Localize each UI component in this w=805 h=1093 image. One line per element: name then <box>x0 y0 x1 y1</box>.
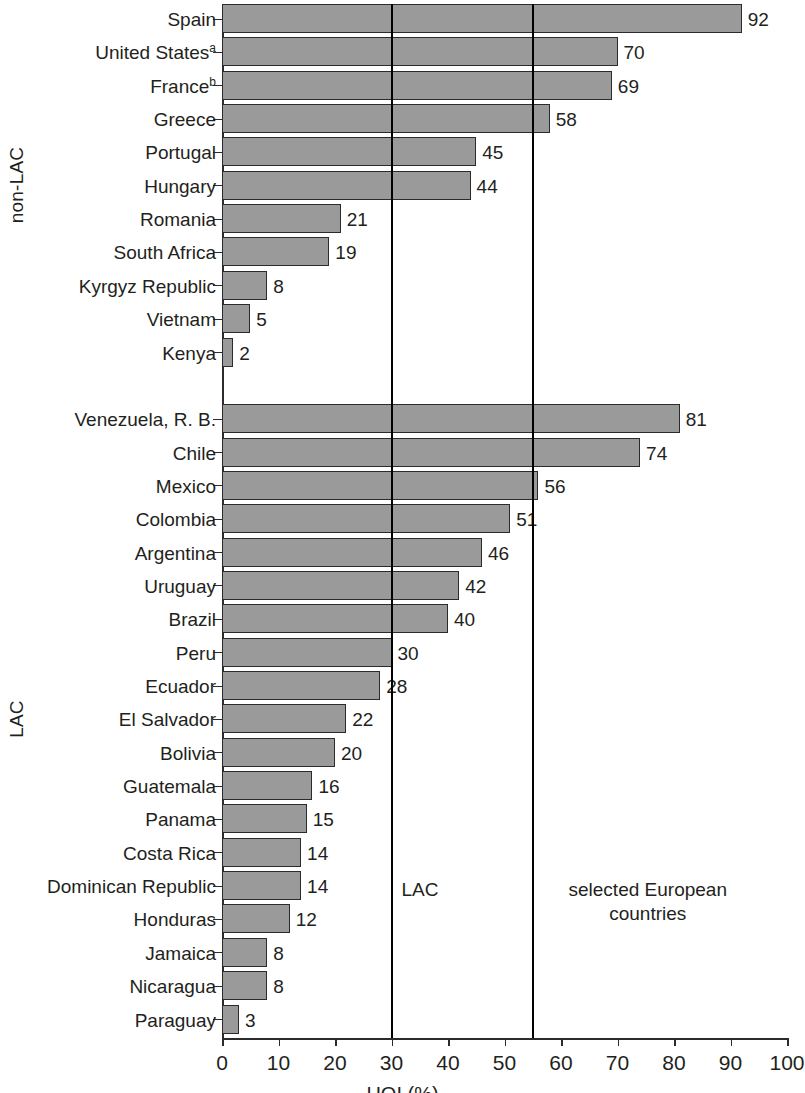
bar-row: Brazil40 <box>0 604 805 633</box>
bar <box>222 137 476 166</box>
bar <box>222 438 640 467</box>
bar <box>222 171 471 200</box>
bar-value-label: 69 <box>618 77 639 96</box>
bar-row: Portugal45 <box>0 137 805 166</box>
bar-value-label: 20 <box>341 744 362 763</box>
bar-value-label: 14 <box>307 844 328 863</box>
x-axis-tick-label: 70 <box>606 1051 629 1075</box>
bar <box>222 204 341 233</box>
category-label: South Africa <box>114 243 216 262</box>
category-label: Colombia <box>136 510 216 529</box>
x-axis-tick-label: 90 <box>719 1051 742 1075</box>
bar-value-label: 5 <box>256 310 267 329</box>
bar-row: Vietnam5 <box>0 304 805 333</box>
x-axis-tick-label: 80 <box>662 1051 685 1075</box>
category-label: Franceb <box>150 77 216 96</box>
bar <box>222 304 250 333</box>
bar-value-label: 16 <box>318 777 339 796</box>
bar <box>222 1005 239 1034</box>
bar <box>222 871 301 900</box>
category-label: Panama <box>145 810 216 829</box>
bar-value-label: 58 <box>556 110 577 129</box>
category-label: Uruguay <box>144 577 216 596</box>
x-axis-tick-label: 0 <box>216 1051 228 1075</box>
bar-row: Guatemala16 <box>0 771 805 800</box>
bar-value-label: 8 <box>273 944 284 963</box>
bar <box>222 571 459 600</box>
bar-row: Greece58 <box>0 104 805 133</box>
bar <box>222 404 680 433</box>
category-label: Nicaragua <box>129 977 216 996</box>
bar-value-label: 21 <box>347 210 368 229</box>
bar-value-label: 74 <box>646 444 667 463</box>
reference-line-annotation: LAC <box>402 878 439 902</box>
bar-value-label: 40 <box>454 610 475 629</box>
x-axis-tick <box>731 1038 733 1046</box>
bar-value-label: 3 <box>245 1011 256 1030</box>
bar-row: Mexico56 <box>0 471 805 500</box>
bar-row: Romania21 <box>0 204 805 233</box>
x-axis-tick <box>787 1038 789 1046</box>
bar-value-label: 8 <box>273 277 284 296</box>
bar <box>222 738 335 767</box>
bar <box>222 604 448 633</box>
bar-row: Ecuador28 <box>0 671 805 700</box>
reference-line-annotation: selected European countries <box>543 878 753 926</box>
bar <box>222 771 312 800</box>
bar-row: Kyrgyz Republic8 <box>0 271 805 300</box>
bar-row: Kenya2 <box>0 338 805 367</box>
category-label: Dominican Republic <box>47 877 216 896</box>
bar-value-label: 2 <box>239 344 250 363</box>
x-axis-tick-label: 40 <box>436 1051 459 1075</box>
bar-value-label: 81 <box>686 410 707 429</box>
x-axis-tick <box>335 1038 337 1046</box>
x-axis-tick-label: 30 <box>380 1051 403 1075</box>
bar <box>222 904 290 933</box>
bar <box>222 237 329 266</box>
bar <box>222 271 267 300</box>
bar-value-label: 70 <box>624 43 645 62</box>
bar <box>222 504 510 533</box>
x-axis-title: HOI (%) <box>0 1083 805 1093</box>
bar-value-label: 56 <box>544 477 565 496</box>
x-axis-tick <box>561 1038 563 1046</box>
category-label: Ecuador <box>145 677 216 696</box>
category-label: Argentina <box>135 544 216 563</box>
bar-row: Franceb69 <box>0 71 805 100</box>
bar-value-label: 44 <box>477 177 498 196</box>
bar-row: Argentina46 <box>0 538 805 567</box>
bar-row: El Salvador22 <box>0 704 805 733</box>
bar-value-label: 92 <box>748 10 769 29</box>
category-footnote-marker: a <box>209 41 216 55</box>
x-axis-tick-label: 20 <box>323 1051 346 1075</box>
bar-row: South Africa19 <box>0 237 805 266</box>
bar <box>222 4 742 33</box>
category-label: Romania <box>140 210 216 229</box>
bar-row: Nicaragua8 <box>0 971 805 1000</box>
bar <box>222 804 307 833</box>
bar-row: Peru30 <box>0 638 805 667</box>
category-label: Kenya <box>162 344 216 363</box>
category-label: Honduras <box>134 910 216 929</box>
category-label: El Salvador <box>119 710 216 729</box>
x-axis-tick-label: 100 <box>769 1051 804 1075</box>
x-axis-tick <box>222 1038 224 1046</box>
bar-row: Panama15 <box>0 804 805 833</box>
category-label: Paraguay <box>135 1011 216 1030</box>
category-label: Vietnam <box>147 310 216 329</box>
hoi-bar-chart: non-LAC LAC Spain92United Statesa70Franc… <box>0 0 805 1093</box>
plot-area: Spain92United Statesa70Franceb69Greece58… <box>0 0 805 1093</box>
bar-value-label: 30 <box>398 644 419 663</box>
category-label: Chile <box>173 444 216 463</box>
x-axis-tick-label: 60 <box>549 1051 572 1075</box>
reference-line <box>532 4 535 1038</box>
category-label: Venezuela, R. B. <box>74 410 216 429</box>
bar <box>222 338 233 367</box>
bar-row: Hungary44 <box>0 171 805 200</box>
bar-value-label: 8 <box>273 977 284 996</box>
bar <box>222 471 538 500</box>
bar-value-label: 42 <box>465 577 486 596</box>
x-axis-tick-label: 10 <box>267 1051 290 1075</box>
bar <box>222 671 380 700</box>
category-label: Mexico <box>156 477 216 496</box>
